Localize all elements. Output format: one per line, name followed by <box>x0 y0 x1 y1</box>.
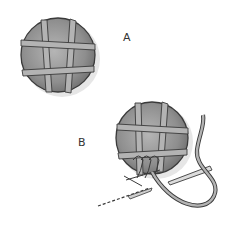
needle-left <box>98 188 152 206</box>
stitch-diagram <box>0 0 228 225</box>
label-b: B <box>78 136 86 149</box>
label-a: A <box>123 31 131 44</box>
panel-a-disc <box>21 18 100 97</box>
